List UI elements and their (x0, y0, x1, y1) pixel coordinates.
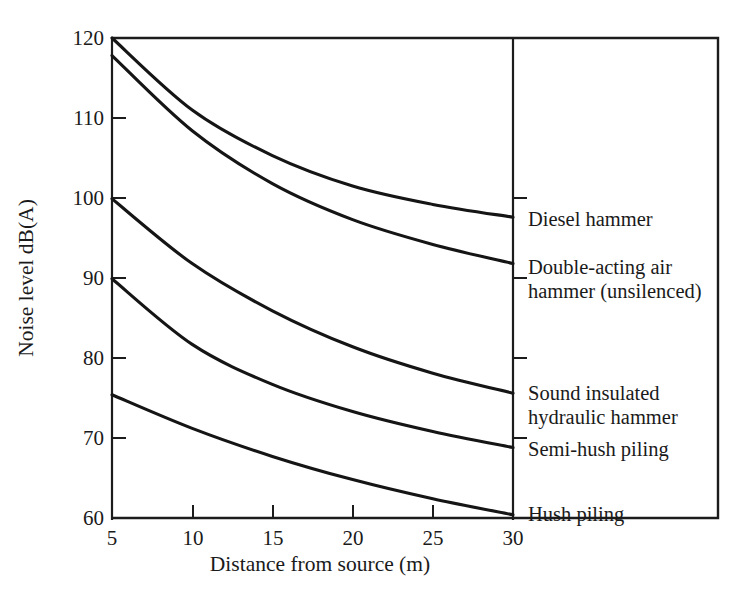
curve-sound-insulated-hydraulic-hammer (112, 199, 513, 393)
chart-figure: 120 110 100 90 80 70 60 5 10 15 20 25 30… (0, 0, 752, 602)
y-tick-label-60: 60 (58, 508, 104, 529)
y-tick-label-90: 90 (58, 268, 104, 289)
series-label-hush-piling: Hush piling (528, 503, 624, 527)
y-tick-marks (112, 118, 126, 438)
x-tick-label-15: 15 (263, 528, 284, 549)
y-tick-label-120: 120 (58, 28, 104, 49)
series-label-semi-hush-piling: Semi-hush piling (528, 438, 669, 462)
curve-diesel-hammer (112, 38, 513, 217)
series-label-sound-insulated-hydraulic-hammer: Sound insulated hydraulic hammer (528, 382, 678, 430)
y-tick-label-80: 80 (58, 348, 104, 369)
data-curves (112, 38, 513, 515)
x-tick-label-20: 20 (343, 528, 364, 549)
series-label-double-acting-air-hammer: Double-acting air hammer (unsilenced) (528, 256, 702, 304)
x-tick-label-10: 10 (183, 528, 204, 549)
y-tick-label-110: 110 (58, 108, 104, 129)
y-axis-title: Noise level dB(A) (14, 199, 39, 357)
curve-hush-piling (112, 395, 513, 515)
y-tick-label-70: 70 (58, 428, 104, 449)
x-axis-title: Distance from source (m) (0, 552, 640, 577)
curve-semi-hush-piling (112, 279, 513, 448)
x-tick-label-5: 5 (107, 528, 118, 549)
x-tick-marks (193, 505, 433, 518)
curve-double-acting-air-hammer-unsilenced (112, 56, 513, 264)
x-tick-label-25: 25 (423, 528, 444, 549)
x-tick-label-30: 30 (503, 528, 524, 549)
legend-tick-marks (513, 198, 527, 438)
y-tick-label-100: 100 (58, 188, 104, 209)
series-label-diesel-hammer: Diesel hammer (528, 208, 653, 232)
